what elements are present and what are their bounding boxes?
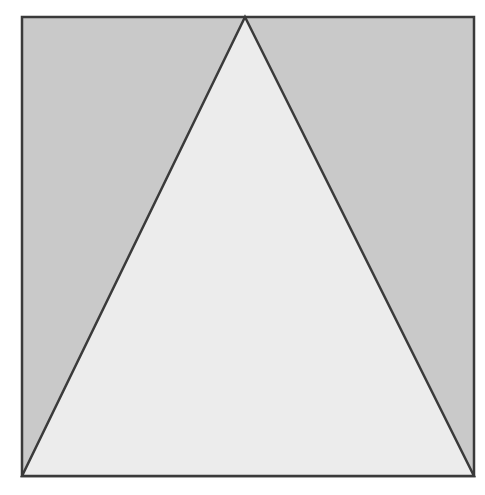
square-with-inscribed-triangle-diagram — [0, 0, 485, 495]
